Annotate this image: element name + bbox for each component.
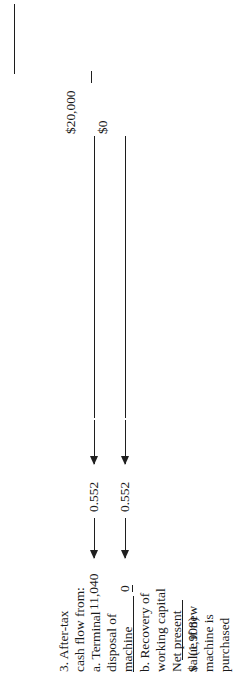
top-rule	[14, 4, 15, 74]
label-line-8: value if new	[186, 606, 199, 672]
label-line-1: cash flow from:	[73, 587, 86, 672]
label-line-9: machine is	[202, 614, 215, 672]
present-value-working-capital: 0	[118, 585, 133, 592]
column-guide-terminal	[94, 136, 95, 418]
arrow-working-capital-to-factor	[125, 420, 126, 464]
label-line-5: b. Recovery of	[138, 593, 151, 672]
worksheet-canvas: $20,000 $0 0.552 11,040 0.552 0 $ (1,908…	[0, 0, 232, 680]
label-line-6: working capital	[154, 588, 167, 672]
label-line-3: disposal of	[105, 614, 118, 672]
arrow-terminal-disposal-to-factor	[94, 420, 95, 464]
amount-recovery-working-capital: $0	[96, 121, 109, 134]
amount-terminal-disposal: $20,000	[64, 90, 77, 134]
label-line-0: 3. After-tax	[57, 611, 70, 672]
label-line-2: a. Terminal	[89, 611, 102, 672]
header-connector	[91, 71, 92, 83]
label-line-7: Net present	[170, 611, 183, 672]
factor-terminal-disposal: 0.552	[87, 482, 100, 512]
factor-working-capital: 0.552	[118, 482, 131, 512]
present-value-terminal-disposal: 11,040	[87, 574, 100, 610]
arrow-working-capital-factor-to-pv	[125, 518, 126, 558]
label-line-10: purchased	[218, 618, 231, 672]
arrow-terminal-factor-to-pv	[94, 518, 95, 558]
rotated-sheet: $20,000 $0 0.552 11,040 0.552 0 $ (1,908…	[0, 0, 232, 680]
column-guide-working-capital	[125, 136, 126, 418]
label-line-4: machine	[121, 627, 134, 672]
worksheet-sheet: $20,000 $0 0.552 11,040 0.552 0 $ (1,908…	[0, 0, 232, 680]
